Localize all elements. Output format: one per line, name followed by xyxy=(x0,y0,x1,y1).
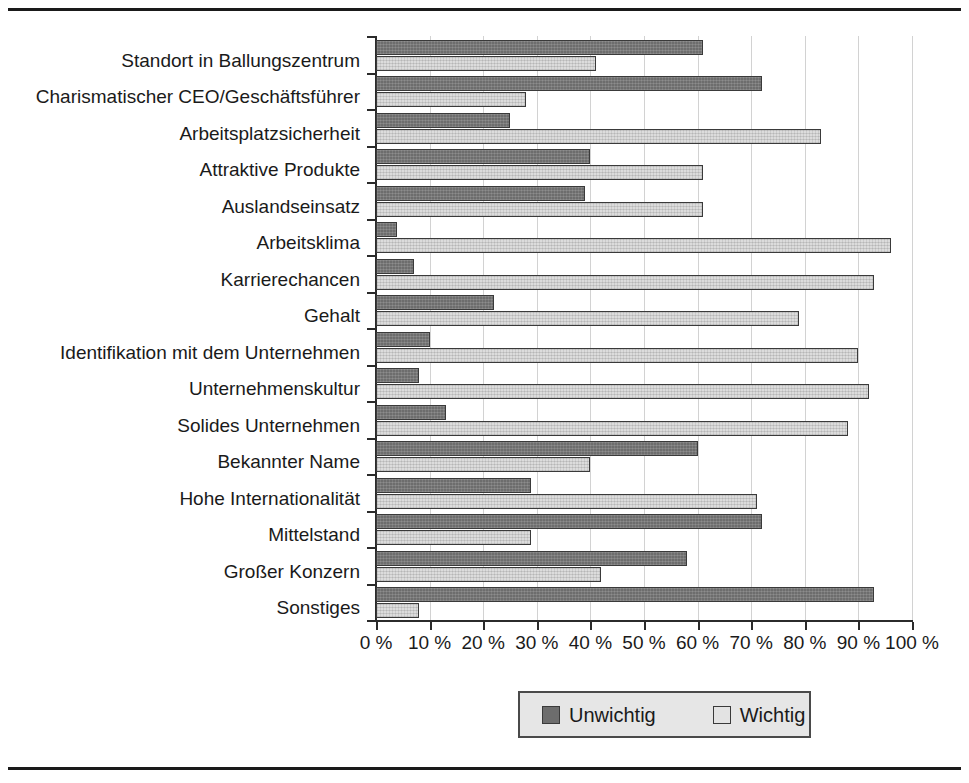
category-label: Großer Konzern xyxy=(224,562,360,581)
gridline xyxy=(644,36,645,620)
x-axis-tick xyxy=(912,622,914,630)
y-axis-tick xyxy=(367,547,376,549)
bar-wichtig xyxy=(376,238,891,253)
category-label: Unternehmenskultur xyxy=(189,379,360,398)
x-axis-tick-label: 100 % xyxy=(884,632,940,654)
y-axis-tick xyxy=(367,511,376,513)
bar-wichtig xyxy=(376,348,858,363)
x-axis-tick xyxy=(751,622,753,630)
x-axis-tick-label: 70 % xyxy=(723,632,779,654)
bar-unwichtig xyxy=(376,587,874,602)
y-axis-tick xyxy=(367,584,376,586)
bar-unwichtig xyxy=(376,186,585,201)
category-label: Arbeitsklima xyxy=(257,233,360,252)
y-axis-tick xyxy=(367,146,376,148)
y-axis-tick xyxy=(367,182,376,184)
gridline xyxy=(698,36,699,620)
chart-legend: Unwichtig Wichtig xyxy=(518,691,811,738)
y-axis-tick xyxy=(367,255,376,257)
gridline xyxy=(858,36,859,620)
x-axis-tick xyxy=(858,622,860,630)
bar-unwichtig xyxy=(376,76,762,91)
bar-wichtig xyxy=(376,530,531,545)
x-axis-tick-label: 50 % xyxy=(616,632,672,654)
x-axis-tick xyxy=(537,622,539,630)
bar-unwichtig xyxy=(376,514,762,529)
bar-wichtig xyxy=(376,567,601,582)
y-axis-tick xyxy=(367,438,376,440)
plot-area xyxy=(376,36,912,620)
bar-wichtig xyxy=(376,92,526,107)
bottom-rule xyxy=(8,767,961,770)
category-label: Gehalt xyxy=(304,306,360,325)
category-label: Sonstiges xyxy=(277,598,360,617)
gridline xyxy=(912,36,913,620)
dark-gray-swatch-icon xyxy=(542,706,560,724)
y-axis-tick xyxy=(367,401,376,403)
y-axis-tick xyxy=(367,292,376,294)
category-label: Auslandseinsatz xyxy=(222,197,360,216)
x-axis-tick-label: 30 % xyxy=(509,632,565,654)
category-label: Bekannter Name xyxy=(217,452,360,471)
x-axis-tick-label: 10 % xyxy=(402,632,458,654)
x-axis-tick xyxy=(644,622,646,630)
legend-item-wichtig: Wichtig xyxy=(713,705,806,725)
category-label: Hohe Internationalität xyxy=(179,489,360,508)
x-axis-tick-label: 20 % xyxy=(455,632,511,654)
bar-wichtig xyxy=(376,494,757,509)
bar-wichtig xyxy=(376,603,419,618)
category-label: Mittelstand xyxy=(268,525,360,544)
y-axis-tick xyxy=(367,73,376,75)
top-rule xyxy=(8,8,961,11)
bar-unwichtig xyxy=(376,478,531,493)
bar-wichtig xyxy=(376,457,590,472)
bar-wichtig xyxy=(376,56,596,71)
bar-unwichtig xyxy=(376,551,687,566)
category-label: Solides Unternehmen xyxy=(177,416,360,435)
x-axis-tick xyxy=(376,622,378,630)
bar-wichtig xyxy=(376,129,821,144)
x-axis-tick-label: 40 % xyxy=(562,632,618,654)
y-axis-tick xyxy=(367,328,376,330)
x-axis-tick-label: 60 % xyxy=(670,632,726,654)
bar-wichtig xyxy=(376,421,848,436)
legend-item-unwichtig: Unwichtig xyxy=(542,705,656,725)
y-axis-tick xyxy=(367,36,376,38)
bar-chart: Standort in BallungszentrumCharismatisch… xyxy=(0,36,969,636)
bar-unwichtig xyxy=(376,149,590,164)
category-label: Standort in Ballungszentrum xyxy=(121,51,360,70)
y-axis-tick xyxy=(367,219,376,221)
legend-label-unwichtig: Unwichtig xyxy=(569,705,656,725)
y-axis-tick xyxy=(367,109,376,111)
bar-unwichtig xyxy=(376,405,446,420)
x-axis-tick-label: 80 % xyxy=(777,632,833,654)
y-axis-tick xyxy=(367,365,376,367)
bar-unwichtig xyxy=(376,441,698,456)
category-label: Karrierechancen xyxy=(221,270,360,289)
bar-wichtig xyxy=(376,384,869,399)
bar-wichtig xyxy=(376,275,874,290)
x-axis-tick xyxy=(590,622,592,630)
gridline xyxy=(805,36,806,620)
bar-unwichtig xyxy=(376,40,703,55)
light-gray-swatch-icon xyxy=(713,706,731,724)
bar-wichtig xyxy=(376,311,799,326)
x-axis-tick xyxy=(698,622,700,630)
bar-unwichtig xyxy=(376,259,414,274)
gridline xyxy=(590,36,591,620)
category-axis-labels: Standort in BallungszentrumCharismatisch… xyxy=(0,36,368,620)
x-axis-tick-label: 90 % xyxy=(830,632,886,654)
category-label: Attraktive Produkte xyxy=(199,160,360,179)
gridline xyxy=(751,36,752,620)
gridline xyxy=(537,36,538,620)
category-label: Identifikation mit dem Unternehmen xyxy=(60,343,360,362)
bar-unwichtig xyxy=(376,222,397,237)
x-axis-tick-label: 0 % xyxy=(348,632,404,654)
bar-unwichtig xyxy=(376,332,430,347)
figure-page: Standort in BallungszentrumCharismatisch… xyxy=(0,0,969,783)
y-axis-tick xyxy=(367,620,376,622)
y-axis-tick xyxy=(367,474,376,476)
x-axis-tick xyxy=(430,622,432,630)
bar-unwichtig xyxy=(376,368,419,383)
bar-unwichtig xyxy=(376,113,510,128)
